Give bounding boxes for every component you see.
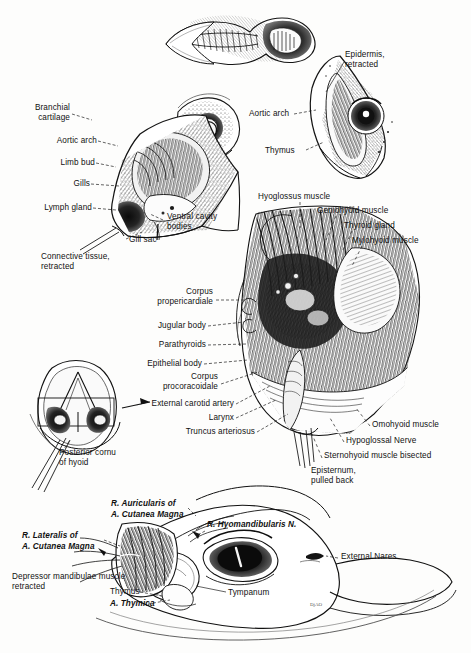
label-corpus-procoracoidale: Corpus procoracoidale	[100, 372, 218, 392]
label-aortic-arch-right: Aortic arch	[249, 109, 289, 119]
label-depressor-mandibulae-muscle-retracted: Depressor mandibulae muscle retracted	[12, 572, 125, 592]
label-gill-sac: Gill sac	[129, 235, 157, 245]
label-hypoglossal-nerve: Hypoglossal Nerve	[346, 436, 416, 446]
label-a-cutanea-magna-lateralis: A. Cutanea Magna	[22, 542, 95, 552]
label-thyroid-gland: Thyroid gland	[344, 221, 395, 231]
tympanum-detail	[141, 552, 199, 601]
label-ventral-cavity-bodies: Ventral cavity bodies	[167, 212, 217, 232]
label-external-carotid-artery: External carotid artery	[100, 399, 234, 409]
label-epidermis-retracted: Epidermis, retracted	[345, 50, 385, 70]
label-sternohyoid-muscle-bisected: Sternohyoid muscle bisected	[324, 451, 431, 461]
label-a-cutanea-magna-auricularis: A. Cutanea Magna	[111, 510, 184, 520]
illustration-page: Branchial cartilage Aortic arch Limb bud…	[0, 0, 471, 653]
label-geniohyoid-muscle: Geniohyoid muscle	[317, 206, 388, 216]
eye-detail	[203, 530, 278, 584]
anatomical-artwork	[0, 0, 471, 653]
label-r-hyomandibularis-n: R. Hyomandibularis N.	[207, 520, 296, 530]
label-thymus-lower: Thymus	[110, 587, 140, 597]
label-jugular-body: Jugular body	[100, 321, 206, 331]
label-mylohyoid-muscle: Mylohyoid muscle	[352, 236, 419, 246]
label-aortic-arch-left: Aortic arch	[0, 136, 97, 146]
spiral-section-figure	[178, 94, 240, 160]
artist-signature: DjAO	[310, 602, 322, 607]
label-tympanum: Tympanum	[228, 588, 269, 598]
tadpole-whole-figure	[160, 14, 320, 70]
label-connective-tissue-retracted: Connective tissue, retracted	[41, 252, 110, 272]
label-corpus-propericardiale: Corpus propericardiale	[100, 287, 213, 307]
label-r-auricularis-of: R. Auricularis of	[111, 499, 176, 509]
label-thymus-upper: Thymus	[265, 146, 295, 156]
upper-right-section-figure	[305, 50, 395, 190]
larval-branchial-section-figure	[80, 110, 248, 254]
label-parathyroids: Parathyroids	[100, 340, 206, 350]
external-nares-mark	[300, 553, 324, 562]
label-gills: Gills	[0, 179, 90, 189]
label-hyoglossus-muscle: Hyoglossus muscle	[258, 192, 330, 202]
label-r-lateralis-of: R. Lateralis of	[22, 531, 78, 541]
label-epithelial-body: Epithelial body	[100, 359, 202, 369]
label-episternum-pulled-back: Episternum, pulled back	[311, 466, 356, 486]
label-truncus-arteriosus: Truncus arteriosus	[140, 427, 255, 437]
label-a-thymica: A. Thymica	[110, 599, 155, 609]
label-omohyoid-muscle: Omohyoid muscle	[372, 420, 439, 430]
label-larynx: Larynx	[140, 413, 234, 423]
label-posterior-cornu-of-hyoid: Posterior cornu of hyoid	[59, 448, 116, 468]
leader-lines	[0, 0, 471, 653]
label-external-nares: External Nares	[341, 552, 397, 562]
label-lymph-gland: Lymph gland	[0, 203, 92, 213]
label-limb-bud: Limb bud	[0, 158, 95, 168]
label-branchial-cartilage: Branchial cartilage	[0, 103, 70, 123]
